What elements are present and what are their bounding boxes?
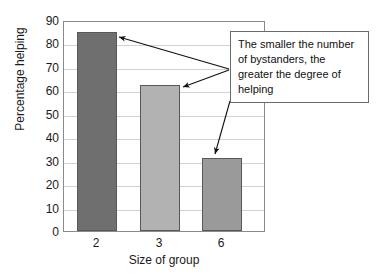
x-tick-2: 2 <box>76 236 116 250</box>
callout-line-1: The smaller the number <box>238 37 362 52</box>
callout-line-2: of bystanders, the <box>238 52 362 67</box>
x-axis-tick-labels: 2 3 6 <box>63 236 265 252</box>
y-tick-20: 20 <box>25 179 59 191</box>
annotation-callout: The smaller the number of bystanders, th… <box>230 31 369 103</box>
bar-group-2 <box>77 32 117 231</box>
y-axis-title: Percentage helping <box>13 19 27 139</box>
x-tick-3: 3 <box>139 236 179 250</box>
x-tick-6: 6 <box>201 236 241 250</box>
y-tick-90: 90 <box>25 15 59 27</box>
bar-group-6 <box>202 158 242 231</box>
y-tick-60: 60 <box>25 85 59 97</box>
bar-group-3 <box>140 85 180 231</box>
y-tick-10: 10 <box>25 203 59 215</box>
x-axis-title: Size of group <box>63 253 265 267</box>
y-tick-0: 0 <box>25 226 59 238</box>
y-tick-40: 40 <box>25 132 59 144</box>
bar-chart-figure: 90 80 70 60 50 40 30 20 10 0 Percentage … <box>0 0 383 276</box>
y-tick-70: 70 <box>25 62 59 74</box>
y-tick-50: 50 <box>25 109 59 121</box>
y-tick-30: 30 <box>25 156 59 168</box>
callout-line-4: helping <box>238 82 362 97</box>
y-tick-80: 80 <box>25 38 59 50</box>
callout-line-3: greater the degree of <box>238 67 362 82</box>
